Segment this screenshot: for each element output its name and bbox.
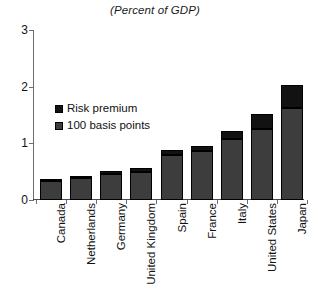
bar-segment-basis-points	[40, 181, 62, 200]
x-axis-label-germany: Germany	[116, 203, 128, 250]
x-axis-label-canada: Canada	[56, 203, 68, 243]
legend-label-risk-premium: Risk premium	[67, 103, 137, 115]
bar-segment-basis-points	[281, 108, 303, 200]
bar-segment-risk-premium	[161, 150, 183, 155]
bar-segment-risk-premium	[191, 146, 213, 151]
risk-premium-swatch	[55, 105, 63, 113]
bar-segment-basis-points	[130, 172, 152, 200]
bar-segment-risk-premium	[251, 114, 273, 128]
basis-points-swatch	[55, 122, 63, 130]
bar-segment-risk-premium	[130, 168, 152, 171]
chart-title: (Percent of GDP)	[0, 4, 310, 16]
bar-segment-risk-premium	[281, 85, 303, 108]
legend-item-risk-premium: Risk premium	[55, 101, 150, 116]
x-axis-label-japan: Japan	[297, 203, 309, 234]
chart-legend: Risk premium 100 basis points	[55, 101, 150, 135]
bar-france	[191, 146, 213, 200]
legend-item-basis-points: 100 basis points	[55, 118, 150, 133]
bar-united-kingdom	[130, 168, 152, 200]
bar-germany	[100, 171, 122, 200]
y-tick-mark	[29, 143, 34, 144]
bar-italy	[221, 131, 243, 200]
bar-segment-basis-points	[161, 155, 183, 200]
bar-segment-basis-points	[191, 151, 213, 200]
bar-segment-risk-premium	[40, 179, 62, 181]
x-axis-label-italy: Italy	[237, 203, 249, 224]
bar-segment-basis-points	[70, 178, 92, 200]
x-axis-labels: CanadaNetherlandsGermanyUnited KingdomSp…	[33, 203, 304, 298]
y-tick-mark	[29, 87, 34, 88]
x-axis-label-france: France	[207, 203, 219, 239]
bar-segment-basis-points	[251, 129, 273, 200]
y-tick-label: 0	[21, 194, 28, 206]
bar-spain	[161, 150, 183, 200]
y-tick-mark	[29, 30, 34, 31]
x-axis-label-united-kingdom: United Kingdom	[146, 203, 158, 285]
y-tick-label: 1	[21, 137, 28, 149]
bar-segment-risk-premium	[221, 131, 243, 139]
bar-segment-basis-points	[221, 139, 243, 200]
x-axis-label-netherlands: Netherlands	[86, 203, 98, 265]
bar-united-states	[251, 114, 273, 200]
legend-label-basis-points: 100 basis points	[67, 120, 150, 132]
x-axis-label-united-states: United States	[267, 203, 279, 272]
bar-segment-risk-premium	[70, 176, 92, 178]
y-tick-mark	[29, 200, 34, 201]
bar-netherlands	[70, 176, 92, 200]
y-tick-label: 2	[21, 81, 28, 93]
chart-container: (Percent of GDP) 0123 Risk premium 100 b…	[0, 0, 310, 300]
bar-segment-risk-premium	[100, 171, 122, 174]
bar-canada	[40, 180, 62, 200]
x-axis-label-spain: Spain	[177, 203, 189, 232]
y-axis-line	[33, 30, 34, 200]
bar-segment-basis-points	[100, 174, 122, 200]
bar-japan	[281, 85, 303, 200]
y-tick-label: 3	[21, 24, 28, 36]
